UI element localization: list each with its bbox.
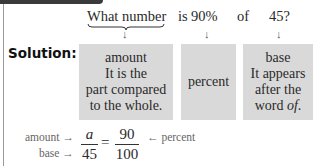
solution-label: Solution: [8,45,77,61]
base-box: base It appears after the word of. [243,44,313,120]
punctuation: . [298,98,302,113]
question-percent: 90% [191,8,218,25]
box-line: It is the [86,66,166,82]
question-what-number: What number [87,8,166,25]
box-line: percent [188,74,229,90]
percent-box: percent [181,44,236,120]
left-rule [3,4,4,166]
header-tab [0,0,103,4]
box-line: after the [251,82,306,98]
fraction-left: a 45 [81,126,98,163]
fraction-right: 90 100 [115,126,139,163]
question-of: of [237,8,249,25]
italic-word: of [287,98,298,113]
amount-label: amount → [25,131,74,143]
equals-sign: = [101,134,109,151]
box-line: part compared [86,82,166,98]
down-arrow-icon: ↓ [276,28,282,40]
base-label: base → [39,147,74,159]
box-line: to the whole. [86,98,166,114]
box-line: base [251,50,306,66]
box-line: amount [86,50,166,66]
down-arrow-icon: ↓ [122,28,128,40]
amount-box: amount It is the part compared to the wh… [79,44,173,120]
percent-label: ← percent [147,131,195,143]
box-line: word [255,98,287,113]
down-arrow-icon: ↓ [204,28,210,40]
question-is: is [178,8,188,25]
question-base: 45? [269,8,290,25]
box-line: It appears [251,66,306,82]
